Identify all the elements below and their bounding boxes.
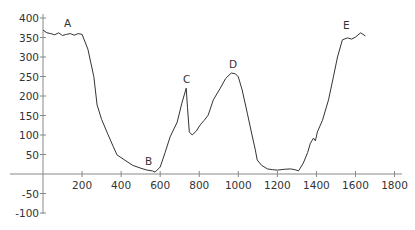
y-ticks: 40035030025020015010050-50-100 <box>15 12 46 219</box>
label-e: E <box>343 19 350 31</box>
label-b: B <box>145 155 152 167</box>
y-tick-label: 200 <box>19 90 39 102</box>
y-tick-label: 50 <box>26 149 39 161</box>
x-tick-label: 600 <box>150 179 170 191</box>
x-tick-label: 400 <box>111 179 131 191</box>
label-a: A <box>64 17 72 29</box>
label-c: C <box>183 73 190 85</box>
line-chart: 20040060080010001200140016001800 4003503… <box>0 0 415 230</box>
y-tick-label: 350 <box>19 32 39 44</box>
label-d: D <box>229 58 237 70</box>
data-line <box>43 30 365 172</box>
x-tick-label: 1800 <box>381 179 408 191</box>
y-tick-label: 300 <box>19 51 39 63</box>
y-tick-label: -100 <box>15 207 39 219</box>
x-tick-label: 1400 <box>303 179 330 191</box>
x-tick-label: 800 <box>189 179 209 191</box>
y-tick-label: 150 <box>19 110 39 122</box>
y-tick-label: -50 <box>22 188 39 200</box>
y-tick-label: 400 <box>19 12 39 24</box>
x-tick-label: 200 <box>72 179 92 191</box>
x-tick-label: 1000 <box>225 179 252 191</box>
point-labels: A B C D E <box>64 17 350 167</box>
y-tick-label: 250 <box>19 71 39 83</box>
axes: 20040060080010001200140016001800 4003503… <box>10 12 408 219</box>
x-tick-label: 1200 <box>264 179 291 191</box>
y-tick-label: 100 <box>19 129 39 141</box>
x-tick-label: 1600 <box>342 179 369 191</box>
